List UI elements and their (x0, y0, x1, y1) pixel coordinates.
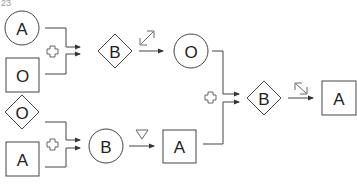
final-output-label: A (333, 90, 345, 109)
diagonal-double-arrow-icon (140, 31, 154, 45)
group1-input-top-circle: A (5, 11, 39, 45)
down-triangle-icon (136, 130, 148, 139)
group2: O A B A (5, 95, 196, 176)
group1-connector-top (45, 28, 80, 47)
plus-outline-icon (47, 139, 58, 150)
diagonal-double-arrow-icon (295, 83, 307, 94)
group1-result-diamond: B (98, 34, 132, 68)
group2-output-label: A (174, 138, 186, 157)
final-output-square: A (322, 81, 356, 115)
final-connector-bottom (203, 102, 239, 144)
group2-input-top-label: O (15, 104, 28, 123)
group1-result-label: B (109, 43, 120, 62)
group2-output-square: A (163, 130, 196, 163)
group1-output-circle: O (174, 34, 208, 68)
group2-input-bottom-label: A (17, 151, 29, 170)
final-connector-top (212, 51, 239, 94)
group1-input-bottom-label: O (16, 67, 29, 86)
diagram-canvas: 23 A O B O (0, 0, 357, 186)
group2-result-label: B (100, 138, 111, 157)
group1-input-top-label: A (16, 20, 28, 39)
plus-outline-icon (47, 46, 58, 57)
group1-input-bottom-square: O (6, 58, 39, 92)
plus-outline-icon (205, 92, 216, 103)
final-result-label: B (258, 90, 269, 109)
group2-connector-top (45, 122, 80, 140)
group2-input-top-diamond: O (5, 95, 39, 129)
final-stage: B A (203, 51, 356, 144)
group1: A O B O (5, 11, 208, 92)
group1-output-label: O (184, 43, 197, 62)
final-result-diamond: B (247, 81, 281, 115)
group2-result-circle: B (89, 129, 123, 163)
group2-input-bottom-square: A (6, 142, 39, 176)
question-number: 23 (1, 0, 11, 8)
group2-connector-bottom (45, 148, 80, 167)
